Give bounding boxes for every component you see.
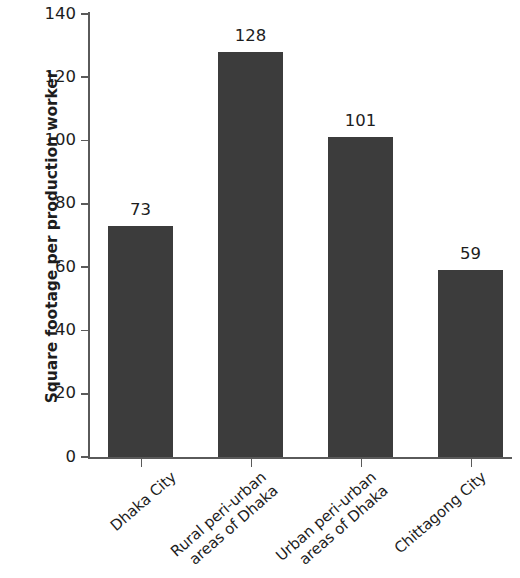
category-label-line: Chittagong City xyxy=(391,468,490,557)
bar-value-label: 59 xyxy=(431,246,511,263)
y-tick-label: 20 xyxy=(24,385,76,402)
y-tick-mark xyxy=(81,456,89,458)
y-tick-label: 60 xyxy=(24,259,76,276)
x-axis-line xyxy=(88,457,512,459)
y-tick-mark xyxy=(81,76,89,78)
y-tick-mark xyxy=(81,13,89,15)
y-tick-label: 40 xyxy=(24,322,76,339)
bar xyxy=(218,52,283,457)
y-tick-mark xyxy=(81,203,89,205)
y-tick-label: 120 xyxy=(24,69,76,86)
y-tick-mark xyxy=(81,140,89,142)
x-tick-mark xyxy=(471,458,473,467)
y-tick-mark xyxy=(81,330,89,332)
y-tick-label: 0 xyxy=(24,449,76,466)
bar-chart: Square footage per production worker 020… xyxy=(0,0,520,578)
category-label-line: Dhaka City xyxy=(107,468,180,535)
x-tick-mark xyxy=(251,458,253,467)
bar-value-label: 101 xyxy=(321,113,401,130)
bar xyxy=(108,226,173,457)
bar xyxy=(328,137,393,457)
x-tick-mark xyxy=(141,458,143,467)
y-tick-mark xyxy=(81,393,89,395)
x-tick-mark xyxy=(361,458,363,467)
bar xyxy=(438,270,503,457)
bar-value-label: 128 xyxy=(211,28,291,45)
y-tick-label: 80 xyxy=(24,195,76,212)
y-tick-label: 100 xyxy=(24,132,76,149)
y-tick-mark xyxy=(81,266,89,268)
bar-value-label: 73 xyxy=(101,202,181,219)
y-tick-label: 140 xyxy=(24,6,76,23)
plot-area: 020406080100120140 7312810159 Dhaka City… xyxy=(0,0,520,578)
